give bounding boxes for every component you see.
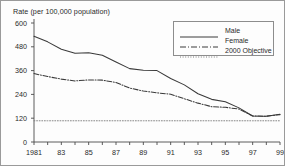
x-axis-tick-label: 89 — [139, 148, 147, 157]
legend-swatch-dotted-line-icon — [179, 47, 219, 55]
chart-legend: Male Female 2000 Objective — [173, 21, 274, 56]
x-axis-tick-label: 95 — [221, 148, 229, 157]
y-axis-tick-label: 480 — [5, 42, 27, 51]
legend-entry-female: Female — [179, 36, 248, 45]
y-axis-tick-label: 240 — [5, 90, 27, 99]
x-axis-tick-label: 1981 — [26, 148, 42, 157]
legend-label-female: Female — [225, 37, 248, 44]
y-axis-tick-label: 0 — [5, 138, 27, 147]
x-axis-tick-label: 97 — [249, 148, 257, 157]
chart-container: Rate (per 100,000 population) 0120240360… — [0, 0, 285, 166]
legend-entry-objective: 2000 Objective — [179, 46, 272, 55]
x-axis-tick-label: 87 — [112, 148, 120, 157]
y-axis-tick-label: 360 — [5, 66, 27, 75]
x-axis-tick-label: 91 — [167, 148, 175, 157]
legend-label-objective: 2000 Objective — [225, 47, 272, 54]
legend-swatch-dashdot-line-icon — [179, 37, 219, 45]
x-axis-tick-label: 93 — [194, 148, 202, 157]
legend-entry-male: Male — [179, 26, 240, 35]
legend-label-male: Male — [225, 27, 240, 34]
x-axis-tick-label: 83 — [57, 148, 65, 157]
legend-swatch-solid-line-icon — [179, 27, 219, 35]
x-axis-tick-label: 99 — [276, 148, 284, 157]
x-axis-tick-label: 85 — [85, 148, 93, 157]
y-axis-tick-label: 600 — [5, 19, 27, 28]
y-axis-tick-label: 120 — [5, 114, 27, 123]
